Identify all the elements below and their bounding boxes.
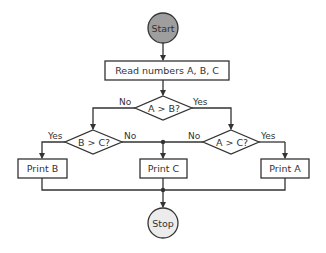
edge-a-gt-b-no	[93, 108, 135, 129]
edge-b-gt-c-yes	[42, 142, 65, 158]
edge-a-gt-b-yes	[192, 108, 231, 129]
decision-a-gt-b-label: A > B?	[148, 103, 180, 114]
start-node: Start	[148, 13, 178, 43]
print-b-label: Print B	[27, 163, 58, 174]
edge-label-yes: Yes	[192, 97, 208, 107]
decision-b-gt-c-label: B > C?	[78, 137, 110, 148]
edge-label-no: No	[119, 97, 132, 107]
junction-dot	[161, 140, 165, 144]
edge-label-no: No	[124, 131, 137, 141]
decision-b-gt-c: B > C?	[65, 130, 122, 154]
stop-node: Stop	[148, 208, 178, 238]
decision-a-gt-b: A > B?	[135, 96, 192, 120]
edge-label-yes: Yes	[47, 131, 63, 141]
print-a-node: Print A	[261, 159, 309, 178]
decision-a-gt-c-label: A > C?	[216, 137, 248, 148]
print-c-label: Print C	[148, 163, 180, 174]
junction-dot	[161, 188, 165, 192]
stop-label: Stop	[152, 218, 174, 229]
decision-a-gt-c: A > C?	[203, 130, 259, 154]
start-label: Start	[151, 23, 174, 34]
read-label: Read numbers A, B, C	[115, 65, 219, 76]
print-c-node: Print C	[140, 159, 187, 178]
flowchart: Start Read numbers A, B, C A > B? No Yes…	[0, 0, 326, 253]
print-a-label: Print A	[269, 163, 301, 174]
print-b-node: Print B	[18, 159, 67, 178]
edge-label-yes: Yes	[260, 131, 276, 141]
edge-label-no: No	[188, 131, 201, 141]
read-node: Read numbers A, B, C	[105, 61, 229, 80]
